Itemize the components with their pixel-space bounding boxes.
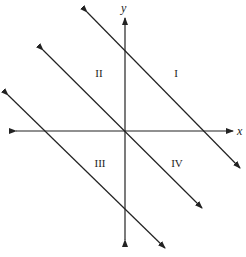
region-label: IV <box>171 157 183 169</box>
x-axis-label: x <box>236 124 243 138</box>
region-label: II <box>95 67 103 79</box>
coordinate-diagram: x y IIIIIIIV <box>0 0 246 257</box>
y-axis-label: y <box>120 1 127 15</box>
middle-line <box>43 50 202 208</box>
lower-line <box>8 95 165 248</box>
diagram-svg: x y IIIIIIIV <box>0 0 246 257</box>
upper-line <box>87 12 240 168</box>
region-label: III <box>95 157 106 169</box>
region-label: I <box>174 67 178 79</box>
